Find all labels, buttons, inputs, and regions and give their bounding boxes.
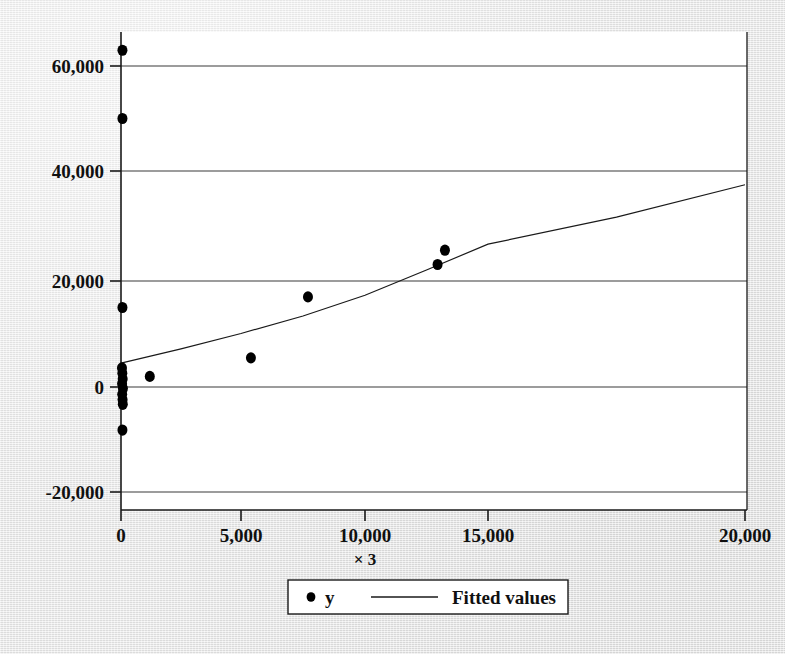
legend-label-fitted-values: Fitted values xyxy=(452,587,556,608)
x-tick-label-5000: 5,000 xyxy=(220,525,263,546)
legend-marker-dot-icon xyxy=(307,592,316,602)
x-axis-title: × 3 xyxy=(354,550,376,569)
x-axis-ticks xyxy=(121,510,745,521)
y-tick-label-40000: 40,000 xyxy=(52,161,104,182)
y-axis-tick-labels: 60,000 40,000 20,000 0 -20,000 xyxy=(45,56,104,503)
plot-area-background xyxy=(121,32,747,510)
scatter-point xyxy=(433,259,443,270)
scatter-point xyxy=(117,45,127,56)
x-axis-tick-labels: 0 5,000 10,000 15,000 20,000 xyxy=(116,525,771,546)
x-tick-label-10000: 10,000 xyxy=(339,525,391,546)
scatter-point xyxy=(117,302,127,313)
scatter-point xyxy=(246,352,256,363)
y-tick-label-60000: 60,000 xyxy=(52,56,104,77)
x-tick-label-20000: 20,000 xyxy=(719,525,771,546)
y-tick-label-0: 0 xyxy=(95,377,105,398)
scatter-point xyxy=(145,371,155,382)
chart-page: 60,000 40,000 20,000 0 -20,000 0 5,000 1… xyxy=(0,0,785,654)
scatter-point xyxy=(440,245,450,256)
y-tick-label-minus20000: -20,000 xyxy=(45,482,104,503)
scatter-chart: 60,000 40,000 20,000 0 -20,000 0 5,000 1… xyxy=(0,0,785,654)
x-tick-label-0: 0 xyxy=(116,525,126,546)
scatter-point xyxy=(118,399,128,410)
scatter-point xyxy=(303,291,313,302)
x-tick-label-15000: 15,000 xyxy=(462,525,514,546)
legend-label-y: y xyxy=(325,587,335,608)
scatter-point xyxy=(117,424,127,435)
scatter-point xyxy=(117,113,127,124)
y-tick-label-20000: 20,000 xyxy=(52,271,104,292)
legend: y Fitted values xyxy=(288,580,568,614)
